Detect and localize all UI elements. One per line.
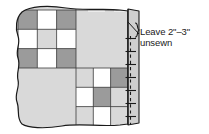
- annotation-callout: Leave 2"–3" unsewn: [140, 26, 209, 48]
- patch-cell: [57, 49, 76, 68]
- nine-patch-top-left: [18, 10, 76, 68]
- patch-cell: [93, 87, 110, 106]
- annotation-line-1: Leave 2"–3": [140, 26, 209, 37]
- plain-block-bottom-left: [8, 68, 76, 126]
- quilt-illustration: [0, 0, 209, 134]
- patch-cell: [111, 68, 128, 87]
- patch-cell: [57, 29, 76, 48]
- patch-cell: [57, 10, 76, 29]
- patch-cell: [93, 68, 110, 87]
- annotation-line-2: unsewn: [140, 37, 209, 48]
- nine-patch-bottom-right: [76, 68, 128, 126]
- patch-cell: [76, 68, 93, 87]
- patch-cell: [18, 49, 37, 68]
- patch-cell: [37, 29, 56, 48]
- patch-cell: [93, 107, 110, 126]
- quilt-body: [8, 0, 140, 134]
- patch-cell: [76, 87, 93, 106]
- quilting-diagram: Leave 2"–3" unsewn: [0, 0, 209, 134]
- edge-notch: [88, 5, 105, 12]
- patch-cell: [37, 49, 56, 68]
- patch-cell: [76, 107, 93, 126]
- plain-block-fill: [76, 10, 128, 68]
- plain-block-fill: [8, 68, 76, 126]
- patch-cell: [111, 87, 128, 106]
- patch-cell: [37, 10, 56, 29]
- patch-cell: [111, 107, 128, 126]
- patch-cell: [18, 29, 37, 48]
- plain-block-top-right: [76, 5, 128, 68]
